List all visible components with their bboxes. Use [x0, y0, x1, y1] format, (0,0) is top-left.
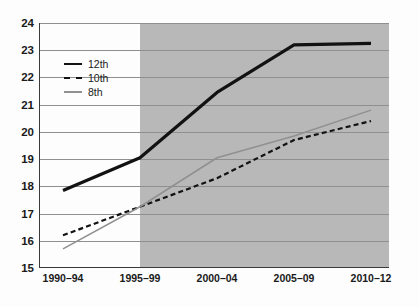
- y-axis-tick-label: 18: [21, 180, 34, 192]
- legend-swatch-10th-icon: [63, 72, 83, 84]
- plot-area: 12th 10th 8th: [39, 23, 389, 268]
- legend-item-10th: 10th: [63, 71, 137, 85]
- series-line-10th: [63, 121, 371, 235]
- x-axis-tick-labels: 1990–941995–992000–042005–092010–12: [39, 272, 389, 292]
- y-axis-tick-label: 24: [21, 17, 34, 29]
- x-axis-tick-label: 2010–12: [351, 272, 392, 284]
- y-axis-tick-label: 19: [21, 153, 34, 165]
- y-axis-tick-labels: 15161718192021222324: [0, 23, 34, 268]
- y-axis-tick-label: 15: [21, 262, 34, 274]
- x-axis-tick-label: 1990–94: [43, 272, 84, 284]
- line-chart: 15161718192021222324 12th 10th 8th 1990–…: [0, 0, 419, 307]
- legend-label-8th: 8th: [83, 86, 103, 98]
- y-axis-tick-label: 16: [21, 235, 34, 247]
- x-axis-tick-label: 1995–99: [120, 272, 161, 284]
- legend-label-10th: 10th: [83, 72, 108, 84]
- x-axis-tick-label: 2000–04: [197, 272, 238, 284]
- legend-label-12th: 12th: [83, 58, 108, 70]
- x-axis-tick-label: 2005–09: [274, 272, 315, 284]
- legend-item-12th: 12th: [63, 57, 137, 71]
- y-axis-tick-label: 21: [21, 99, 34, 111]
- series-line-8th: [63, 110, 371, 249]
- legend-swatch-12th-icon: [63, 58, 83, 70]
- y-axis-tick-label: 17: [21, 208, 34, 220]
- y-axis-tick-label: 22: [21, 71, 34, 83]
- legend-item-8th: 8th: [63, 85, 137, 99]
- y-axis-tick-label: 20: [21, 126, 34, 138]
- y-axis-tick-label: 23: [21, 44, 34, 56]
- legend-swatch-8th-icon: [63, 86, 83, 98]
- legend: 12th 10th 8th: [63, 57, 137, 99]
